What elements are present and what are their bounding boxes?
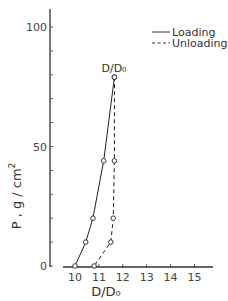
x-tick-label: 15	[188, 271, 202, 284]
data-point-marker	[111, 216, 116, 221]
x-tick-label: 14	[164, 271, 178, 284]
data-point-marker	[101, 159, 106, 164]
y-tick-label: 100	[26, 21, 47, 34]
legend: Loading Unloading	[152, 26, 228, 50]
x-tick-label: 11	[92, 271, 106, 284]
data-point-marker	[112, 159, 117, 164]
y-axis-title-sup: 2	[7, 163, 17, 169]
data-point-marker	[92, 264, 97, 269]
x-axis-title: D/D₀	[91, 284, 121, 299]
series-unloading	[94, 77, 114, 266]
series-group	[73, 75, 117, 268]
data-point-marker	[91, 216, 96, 221]
x-tick-label: 12	[116, 271, 130, 284]
data-point-marker	[83, 240, 88, 245]
svg-text:P , g / cm2: P , g / cm2	[7, 163, 24, 230]
y-axis-title-main: P , g / cm	[9, 168, 24, 229]
x-tick-label: 13	[140, 271, 154, 284]
y-tick-label: 50	[33, 141, 47, 154]
x-tick-label: 10	[68, 271, 82, 284]
data-point-marker	[112, 75, 117, 80]
legend-unloading-label: Unloading	[172, 37, 228, 50]
peak-annotation: D/D₀	[101, 62, 127, 75]
chart-canvas: 050100101112131415 Loading Unloading D/D…	[0, 0, 228, 301]
series-loading	[75, 77, 114, 266]
y-tick-label: 0	[40, 260, 47, 273]
data-point-marker	[73, 264, 78, 269]
data-point-marker	[109, 240, 114, 245]
axes: 050100101112131415	[26, 9, 213, 284]
y-axis-title: P , g / cm2	[7, 163, 24, 230]
